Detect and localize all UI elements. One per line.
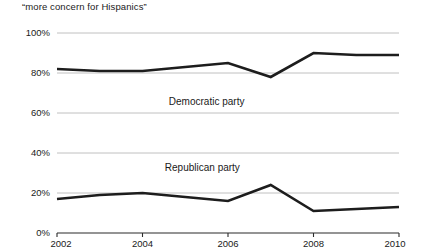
y-tick-label: 20% [31, 187, 51, 198]
series-label: Republican party [165, 162, 240, 173]
series-line [57, 185, 399, 211]
data-series [57, 53, 399, 211]
y-tick-label: 100% [26, 27, 51, 38]
x-tick-label: 2008 [303, 238, 324, 249]
x-tick-label: 2004 [132, 238, 153, 249]
x-axis-tick-labels: 20022004200620082010 [50, 238, 405, 249]
line-chart: 0%20%40%60%80%100% 20022004200620082010 … [0, 0, 427, 249]
x-axis [57, 233, 399, 237]
series-label: Democratic party [169, 96, 245, 107]
x-tick-label: 2006 [217, 238, 238, 249]
x-tick-label: 2002 [50, 238, 71, 249]
y-tick-label: 0% [36, 227, 50, 238]
y-axis-tick-labels: 0%20%40%60%80%100% [26, 27, 51, 238]
y-tick-label: 80% [31, 67, 51, 78]
series-labels: Democratic partyRepublican party [165, 96, 245, 173]
x-tick-label: 2010 [384, 238, 405, 249]
chart-container: “more concern for Hispanics” 0%20%40%60%… [0, 0, 427, 249]
y-tick-label: 60% [31, 107, 51, 118]
y-tick-label: 40% [31, 147, 51, 158]
